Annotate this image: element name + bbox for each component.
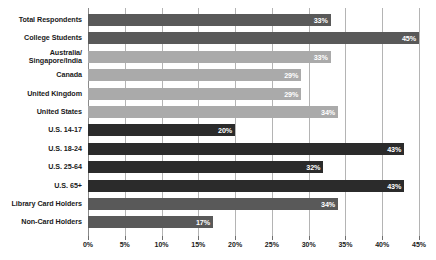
x-tick-label: 25% (265, 241, 279, 248)
category-label: U.S. 25-64 (0, 163, 82, 171)
x-tick-mark (235, 236, 236, 240)
x-tick-label: 10% (155, 241, 169, 248)
x-tick-mark (88, 236, 89, 240)
bar: 20% (88, 124, 235, 136)
bar: 33% (88, 51, 331, 63)
bar: 32% (88, 161, 323, 173)
bar: 34% (88, 198, 338, 210)
bar: 29% (88, 88, 301, 100)
x-tick-mark (419, 236, 420, 240)
bar-value-label: 20% (218, 126, 232, 135)
plot-area: 33%45%33%29%29%34%20%43%32%43%34%17% (88, 8, 419, 236)
x-tick-label: 35% (338, 241, 352, 248)
category-label: College Students (0, 34, 82, 42)
x-tick-mark (309, 236, 310, 240)
x-tick-label: 5% (120, 241, 130, 248)
category-label: Non-Card Holders (0, 218, 82, 226)
gridline (419, 8, 420, 236)
bar-chart: Total RespondentsCollege StudentsAustral… (0, 0, 436, 260)
category-label: U.S. 14-17 (0, 126, 82, 134)
x-tick-mark (345, 236, 346, 240)
bar: 43% (88, 180, 404, 192)
x-tick-mark (198, 236, 199, 240)
category-label: United States (0, 108, 82, 116)
bar: 33% (88, 14, 331, 26)
x-tick-label: 40% (375, 241, 389, 248)
x-axis: 0%5%10%15%20%25%30%35%40%45% (88, 236, 419, 260)
bar-value-label: 29% (284, 71, 298, 80)
bar-value-label: 45% (402, 34, 416, 43)
bar-value-label: 32% (306, 163, 320, 172)
x-tick-label: 20% (228, 241, 242, 248)
x-tick-label: 30% (302, 241, 316, 248)
category-label: Canada (0, 71, 82, 79)
bar-value-label: 43% (387, 181, 401, 190)
bar-value-label: 34% (321, 108, 335, 117)
bar-value-label: 33% (314, 52, 328, 61)
x-tick-label: 0% (83, 241, 93, 248)
bar: 43% (88, 143, 404, 155)
x-tick-mark (382, 236, 383, 240)
bar-value-label: 43% (387, 144, 401, 153)
category-label: United Kingdom (0, 90, 82, 98)
x-tick-label: 15% (191, 241, 205, 248)
x-tick-mark (272, 236, 273, 240)
bar-value-label: 29% (284, 89, 298, 98)
bar-value-label: 33% (314, 16, 328, 25)
x-tick-mark (162, 236, 163, 240)
x-tick-label: 45% (412, 241, 426, 248)
category-label: Australia/ Singapore/India (0, 49, 82, 65)
x-tick-mark (125, 236, 126, 240)
bar: 17% (88, 216, 213, 228)
category-label: Total Respondents (0, 16, 82, 24)
category-label-column: Total RespondentsCollege StudentsAustral… (0, 0, 86, 260)
bar: 45% (88, 32, 419, 44)
bar-value-label: 17% (196, 218, 210, 227)
bar: 29% (88, 69, 301, 81)
category-label: U.S. 65+ (0, 182, 82, 190)
bar: 34% (88, 106, 338, 118)
bar-value-label: 34% (321, 200, 335, 209)
category-label: Library Card Holders (0, 200, 82, 208)
category-label: U.S. 18-24 (0, 145, 82, 153)
